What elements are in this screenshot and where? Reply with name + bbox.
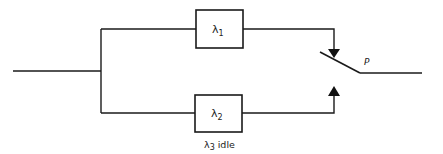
lower-branch-out bbox=[242, 95, 334, 113]
unit1-subscript: 1 bbox=[219, 29, 224, 38]
standby-idle-label: λ3idle bbox=[204, 139, 235, 152]
unit2-block: λ2 bbox=[195, 95, 242, 132]
switch-blade bbox=[320, 52, 360, 73]
standby-redundancy-diagram: λ1 λ2 λ3idle P bbox=[0, 0, 443, 154]
upper-branch-out bbox=[243, 29, 334, 50]
unit1-block: λ1 bbox=[196, 10, 243, 48]
lower-contact-arrow-icon bbox=[328, 86, 340, 96]
unit2-subscript: 2 bbox=[218, 113, 223, 122]
switch-label: P bbox=[364, 57, 370, 67]
